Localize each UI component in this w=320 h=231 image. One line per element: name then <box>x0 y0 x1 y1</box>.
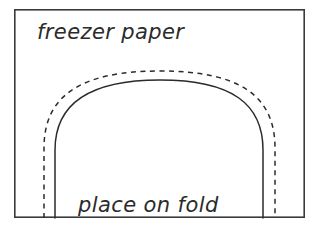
pattern-diagram: freezer paper place on fold <box>0 0 320 231</box>
freezer-paper-label: freezer paper <box>37 20 185 44</box>
pattern-diagram-canvas: freezer paper place on fold <box>0 0 320 231</box>
place-on-fold-label: place on fold <box>77 193 219 217</box>
